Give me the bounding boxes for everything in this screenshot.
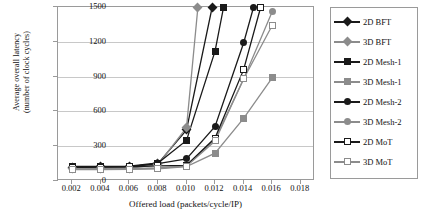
legend-marker-icon [334, 15, 360, 29]
legend-label: 2D MoT [360, 137, 393, 147]
data-point-marker [240, 66, 247, 73]
y-axis-tick [53, 76, 58, 77]
legend-marker-icon [334, 55, 360, 69]
data-point-marker [97, 166, 104, 173]
legend-marker-icon [334, 35, 360, 49]
legend-marker-square-icon [344, 58, 351, 65]
data-point-marker [220, 4, 227, 11]
data-point-marker [212, 123, 219, 130]
legend-label: 2D Mesh-1 [360, 57, 401, 67]
legend-item-3d-mot[interactable]: 3D MoT [334, 152, 417, 172]
x-axis-tick-label: 0.018 [280, 183, 320, 193]
legend-item-2d-mesh-1[interactable]: 2D Mesh-1 [334, 52, 417, 72]
data-point-marker [154, 165, 161, 172]
legend-marker-hsquare-icon [344, 158, 351, 165]
legend-marker-circle-icon [344, 98, 351, 105]
legend-marker-icon [334, 95, 360, 109]
data-point-marker [126, 166, 133, 173]
legend-item-3d-bft[interactable]: 3D BFT [334, 32, 417, 52]
y-axis-tick [53, 41, 58, 42]
y-axis-tick-label: 900 [66, 71, 106, 81]
data-point-marker [183, 163, 190, 170]
legend-label: 2D BFT [360, 17, 391, 27]
data-point-marker [240, 75, 247, 82]
y-axis-title-line2: (number of clock cycles) [22, 0, 32, 152]
legend-marker-icon [334, 115, 360, 129]
y-axis-tick-label: 1500 [66, 1, 106, 11]
legend-marker-diamond-icon [342, 17, 352, 27]
data-point-marker [269, 22, 276, 29]
data-point-marker [212, 150, 219, 157]
legend-label: 3D MoT [360, 157, 393, 167]
chart-legend: 2D BFT3D BFT2D Mesh-13D Mesh-12D Mesh-23… [330, 7, 418, 179]
data-point-marker [240, 115, 247, 122]
data-point-marker [269, 8, 276, 15]
legend-item-2d-bft[interactable]: 2D BFT [334, 12, 417, 32]
data-point-marker [250, 4, 257, 11]
data-point-marker [183, 137, 190, 144]
legend-marker-icon [334, 75, 360, 89]
legend-marker-diamond-icon [342, 37, 352, 47]
legend-label: 2D Mesh-2 [360, 97, 401, 107]
y-axis-tick [53, 145, 58, 146]
legend-marker-circle-icon [344, 118, 351, 125]
chart-figure: Average overall latency (number of clock… [0, 0, 424, 224]
data-point-marker [69, 166, 76, 173]
legend-marker-square-icon [344, 78, 351, 85]
legend-marker-icon [334, 135, 360, 149]
legend-marker-hsquare-icon [344, 138, 351, 145]
y-axis-title: Average overall latency (number of clock… [12, 0, 32, 152]
y-axis-tick-label: 600 [66, 105, 106, 115]
data-point-marker [269, 74, 276, 81]
x-axis-title: Offered load (packets/cycle/IP) [57, 199, 314, 209]
legend-label: 3D BFT [360, 37, 391, 47]
plot-area [57, 6, 314, 180]
data-point-marker [212, 137, 219, 144]
legend-item-2d-mesh-2[interactable]: 2D Mesh-2 [334, 92, 417, 112]
y-axis-tick-label: 1200 [66, 36, 106, 46]
legend-marker-icon [334, 155, 360, 169]
legend-label: 3D Mesh-1 [360, 77, 401, 87]
legend-item-2d-mot[interactable]: 2D MoT [334, 132, 417, 152]
legend-label: 3D Mesh-2 [360, 117, 401, 127]
y-axis-tick [53, 110, 58, 111]
y-axis-title-line1: Average overall latency [12, 0, 22, 152]
legend-item-3d-mesh-1[interactable]: 3D Mesh-1 [334, 72, 417, 92]
legend-item-3d-mesh-2[interactable]: 3D Mesh-2 [334, 112, 417, 132]
y-axis-tick [53, 180, 58, 181]
y-axis-tick-label: 300 [66, 140, 106, 150]
data-point-marker [257, 4, 264, 11]
series-line-3d-mesh-1 [72, 78, 272, 170]
y-axis-tick [53, 6, 58, 7]
data-point-marker [212, 48, 219, 55]
